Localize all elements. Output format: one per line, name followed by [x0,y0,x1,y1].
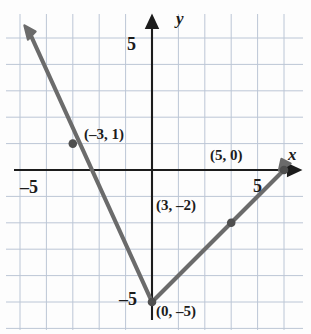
y-axis-tick-5: 5 [127,35,136,53]
graph-curve [25,26,291,303]
x-axis-tick-5: 5 [253,177,262,195]
absolute-value-graph-figure: y x 5 –5 –5 5 (–3, 1) (3, –2) (5, 0) (0,… [0,0,311,334]
point-label-0-neg5: (0, –5) [156,304,196,319]
data-point-neg3-1 [69,139,78,148]
y-axis-arrowhead [146,16,157,28]
curve-path [30,33,285,303]
point-label-neg3-1: (–3, 1) [84,127,124,142]
point-label-3-neg2: (3, –2) [156,198,196,213]
x-axis-label: x [288,146,297,163]
data-point-5-0 [280,166,289,175]
grid-lines [6,14,303,330]
data-point-3-neg2 [227,219,236,228]
x-axis-arrowhead [288,164,300,175]
point-label-5-0: (5, 0) [210,148,243,163]
data-point-0-neg5 [148,298,157,307]
y-axis-label: y [176,10,184,27]
x-axis-tick-negative-5: –5 [20,178,38,196]
y-axis-tick-negative-5: –5 [119,290,137,308]
coordinate-plane [0,0,311,334]
